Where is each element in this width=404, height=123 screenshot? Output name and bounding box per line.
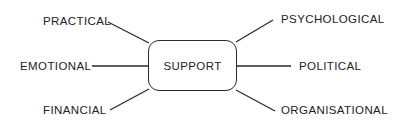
connector-psychological	[236, 20, 273, 42]
node-organisational: ORGANISATIONAL	[281, 104, 388, 117]
node-practical: PRACTICAL	[43, 15, 111, 28]
node-emotional: EMOTIONAL	[20, 60, 91, 73]
connector-organisational	[236, 90, 275, 111]
node-psychological: PSYCHOLOGICAL	[281, 13, 385, 26]
center-node-support: SUPPORT	[148, 40, 237, 91]
node-political: POLITICAL	[299, 60, 361, 73]
connector-practical	[108, 22, 149, 43]
connector-financial	[110, 89, 149, 110]
node-financial: FINANCIAL	[43, 104, 107, 117]
center-node-label: SUPPORT	[163, 60, 221, 72]
